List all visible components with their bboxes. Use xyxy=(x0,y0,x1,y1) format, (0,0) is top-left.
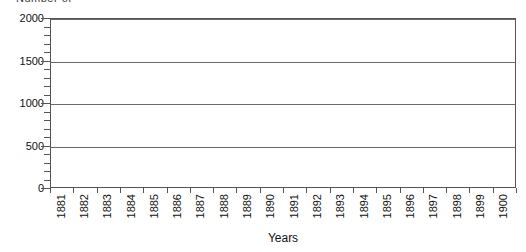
x-axis-label-1900: 1900 xyxy=(498,194,509,218)
x-axis-label-1881: 1881 xyxy=(56,194,67,218)
plot-area xyxy=(50,18,516,188)
x-axis-label-1882: 1882 xyxy=(79,194,90,218)
x-tick-6 xyxy=(190,188,191,193)
x-tick-2 xyxy=(97,188,98,193)
x-axis-label-1887: 1887 xyxy=(195,194,206,218)
x-axis-label-1885: 1885 xyxy=(149,194,160,218)
x-tick-14 xyxy=(376,188,377,193)
gridline-500 xyxy=(51,147,515,148)
x-tick-16 xyxy=(423,188,424,193)
y-axis-labels: 0500100015002000 xyxy=(0,0,44,252)
x-tick-7 xyxy=(213,188,214,193)
x-tick-10 xyxy=(283,188,284,193)
gridline-1000 xyxy=(51,104,515,105)
gridline-1500 xyxy=(51,62,515,63)
chart-container: Number of 0500100015002000 1881188218831… xyxy=(0,0,526,252)
y-axis-label-0: 0 xyxy=(0,183,44,194)
y-axis-label-1000: 1000 xyxy=(0,98,44,109)
x-axis-title: Years xyxy=(50,231,516,245)
x-tick-0 xyxy=(50,188,51,193)
y-tick-500 xyxy=(41,146,50,147)
x-axis-label-1896: 1896 xyxy=(405,194,416,218)
gridline-2000 xyxy=(51,19,515,20)
x-axis-label-1895: 1895 xyxy=(382,194,393,218)
x-tick-1 xyxy=(73,188,74,193)
x-tick-19 xyxy=(493,188,494,193)
x-tick-8 xyxy=(236,188,237,193)
y-tick-2000 xyxy=(41,18,50,19)
x-axis-label-1888: 1888 xyxy=(219,194,230,218)
x-axis-label-1893: 1893 xyxy=(335,194,346,218)
x-tick-20 xyxy=(516,188,517,193)
x-tick-13 xyxy=(353,188,354,193)
x-tick-12 xyxy=(330,188,331,193)
x-axis-label-1883: 1883 xyxy=(102,194,113,218)
x-axis-labels: 1881188218831884188518861887188818891890… xyxy=(50,194,516,228)
x-axis-label-1894: 1894 xyxy=(359,194,370,218)
x-axis-label-1884: 1884 xyxy=(126,194,137,218)
y-axis-label-1500: 1500 xyxy=(0,55,44,66)
x-axis-label-1890: 1890 xyxy=(265,194,276,218)
y-tick-1000 xyxy=(41,103,50,104)
x-tick-17 xyxy=(446,188,447,193)
x-axis-label-1889: 1889 xyxy=(242,194,253,218)
x-axis-label-1891: 1891 xyxy=(289,194,300,218)
x-axis-label-1898: 1898 xyxy=(452,194,463,218)
x-tick-4 xyxy=(143,188,144,193)
y-axis-label-2000: 2000 xyxy=(0,13,44,24)
x-axis-ticks xyxy=(50,188,516,193)
x-axis-label-1892: 1892 xyxy=(312,194,323,218)
x-tick-15 xyxy=(400,188,401,193)
x-tick-11 xyxy=(306,188,307,193)
x-tick-3 xyxy=(120,188,121,193)
x-tick-18 xyxy=(469,188,470,193)
x-tick-5 xyxy=(167,188,168,193)
y-tick-1500 xyxy=(41,61,50,62)
y-axis-label-500: 500 xyxy=(0,140,44,151)
x-axis-label-1897: 1897 xyxy=(428,194,439,218)
y-tick-0 xyxy=(41,188,50,189)
y-axis-ticks xyxy=(41,18,50,188)
x-axis-label-1899: 1899 xyxy=(475,194,486,218)
x-tick-9 xyxy=(260,188,261,193)
x-axis-label-1886: 1886 xyxy=(172,194,183,218)
